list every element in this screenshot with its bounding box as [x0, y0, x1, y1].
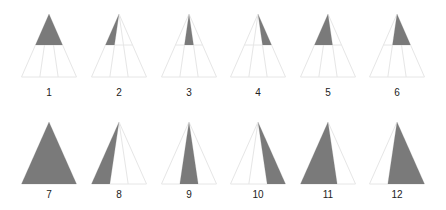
- figure-label: 9: [174, 189, 204, 200]
- figure-label: 10: [243, 189, 273, 200]
- figure-2: [92, 14, 147, 77]
- pyramid-outline: [231, 14, 286, 77]
- filled-region: [22, 122, 77, 184]
- figure-5: [301, 14, 356, 77]
- figure-11: [301, 122, 356, 184]
- triangle-figures-diagram: [0, 0, 446, 210]
- figure-6: [370, 14, 425, 77]
- figure-label: 5: [313, 87, 343, 98]
- figure-label: 6: [382, 87, 412, 98]
- figure-label: 8: [104, 189, 134, 200]
- figure-label: 1: [34, 87, 64, 98]
- filled-region: [35, 14, 62, 45]
- pyramid-outline: [92, 14, 147, 77]
- figure-label: 4: [243, 87, 273, 98]
- filled-region: [180, 122, 198, 184]
- filled-region: [184, 14, 193, 45]
- figure-label: 7: [34, 189, 64, 200]
- figure-label: 3: [174, 87, 204, 98]
- figure-7: [22, 122, 77, 184]
- figure-10: [231, 122, 286, 184]
- figure-1: [22, 14, 77, 77]
- figure-8: [92, 122, 147, 184]
- figure-label: 11: [313, 189, 343, 200]
- figure-3: [162, 14, 217, 77]
- figure-4: [231, 14, 286, 77]
- figure-label: 12: [382, 189, 412, 200]
- figure-label: 2: [104, 87, 134, 98]
- figure-12: [370, 122, 425, 184]
- figure-9: [162, 122, 217, 184]
